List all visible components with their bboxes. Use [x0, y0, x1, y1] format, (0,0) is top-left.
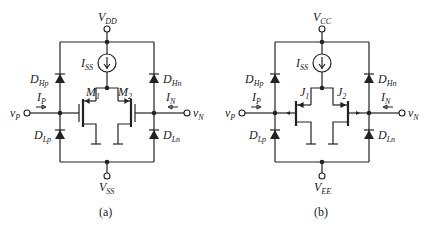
diode-lp-label: DLp: [33, 128, 51, 144]
diode-lp-icon: [270, 130, 280, 139]
diode-hp-label: DHp: [29, 72, 48, 88]
vcc-terminal-icon: [319, 26, 325, 32]
diode-lp-label: DLp: [248, 128, 266, 144]
diode-ln-label: DLn: [377, 128, 395, 144]
current-n-label: IN: [165, 90, 176, 106]
input-n-terminal-icon: [184, 110, 190, 116]
diode-ln-label: DLn: [162, 128, 180, 144]
supply-top-label: VCC: [313, 10, 332, 26]
device-left-label: J1: [300, 85, 309, 101]
diode-hn-label: DHn: [162, 72, 181, 88]
panel-caption: (b): [314, 205, 328, 219]
vss-terminal-icon: [104, 173, 110, 179]
device-right-label: M2: [117, 85, 132, 101]
current-source-label: ISS: [80, 56, 93, 72]
supply-top-label: VDD: [98, 10, 117, 26]
figure-canvas: VDD ISS M1: [0, 0, 430, 232]
schematic-figure: VDD ISS M1: [0, 0, 430, 232]
diode-ln-icon: [364, 130, 374, 139]
diode-hn-icon: [364, 74, 374, 83]
supply-bottom-label: VSS: [99, 180, 114, 196]
device-right-label: J2: [337, 85, 346, 101]
input-n-terminal-icon: [399, 110, 405, 116]
panel-caption: (a): [99, 205, 112, 219]
device-right: M2: [113, 85, 154, 144]
device-left: M1: [60, 85, 101, 144]
input-p-label: vP: [10, 106, 20, 122]
vee-terminal-icon: [319, 173, 325, 179]
device-left: J1: [275, 85, 316, 144]
current-p-label: IP: [251, 90, 261, 106]
current-p-label: IP: [36, 90, 46, 106]
diode-hn-icon: [149, 74, 159, 83]
input-p-label: vP: [225, 106, 235, 122]
supply-bottom-label: VEE: [314, 180, 331, 196]
current-n-label: IN: [380, 90, 391, 106]
device-right: J2: [328, 85, 369, 144]
diode-hn-label: DHn: [377, 72, 396, 88]
diode-hp-label: DHp: [244, 72, 263, 88]
input-p-terminal-icon: [24, 110, 30, 116]
panel-b: VCC ISS J1 J2: [225, 10, 419, 219]
input-p-terminal-icon: [239, 110, 245, 116]
current-source-label: ISS: [295, 56, 308, 72]
panel-a: VDD ISS M1: [10, 10, 204, 219]
input-n-label: vN: [408, 106, 419, 122]
diode-lp-icon: [55, 130, 65, 139]
diode-hp-icon: [55, 74, 65, 83]
input-n-label: vN: [193, 106, 204, 122]
diode-hp-icon: [270, 74, 280, 83]
vdd-terminal-icon: [104, 26, 110, 32]
diode-ln-icon: [149, 130, 159, 139]
